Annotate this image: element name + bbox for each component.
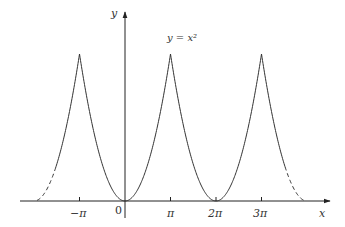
tick-label-3pi: 3π xyxy=(253,208,267,219)
curve-solid xyxy=(55,54,285,201)
x-ticks xyxy=(80,197,262,201)
plot-canvas: y y = x² 0 −π π 2π 3π x xyxy=(0,0,345,227)
x-axis-label: x xyxy=(319,208,325,219)
origin-label: 0 xyxy=(115,205,122,216)
tick-label-pi: π xyxy=(167,208,174,219)
y-axis-label: y xyxy=(111,8,117,19)
curve-dashed-right xyxy=(285,167,304,201)
tick-label-neg-pi: −π xyxy=(70,208,86,219)
equation-annotation: y = x² xyxy=(167,33,197,43)
tick-label-2pi: 2π xyxy=(208,208,222,219)
curve-dashed-left xyxy=(37,170,55,201)
